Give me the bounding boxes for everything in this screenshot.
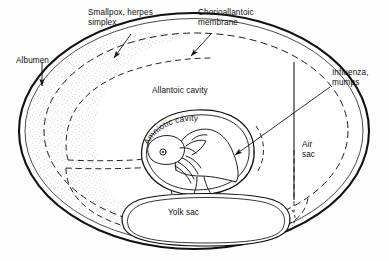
label-smallpox-herpes-simplex: Smallpox, herpes simplex	[88, 8, 153, 28]
label-allantoic-cavity: Allantoic cavity	[152, 86, 208, 96]
label-yolk-sac: Yolk sac	[168, 208, 199, 218]
label-air-sac: Air sac	[302, 140, 315, 160]
egg-diagram-svg	[0, 0, 389, 261]
diagram-canvas: Albumen Smallpox, herpes simplex Chorioa…	[0, 0, 389, 261]
label-chorioallantoic-membrane: Chorioallantoic membrane	[198, 8, 254, 28]
label-albumen: Albumen	[16, 56, 49, 66]
label-influenza-mumps: Influenza, mumps	[332, 68, 369, 88]
